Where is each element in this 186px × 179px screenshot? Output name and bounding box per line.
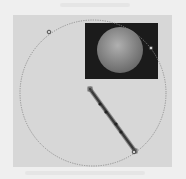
rod[interactable] [90,89,135,151]
circle-handle[interactable] [132,150,136,154]
rod-marker [114,122,117,125]
rod-marker [98,102,101,105]
diagram-canvas [0,0,186,179]
rod-marker [104,110,107,113]
circle-handle[interactable] [47,30,51,34]
circle-handle[interactable] [149,46,153,50]
rod-marker [119,130,122,133]
